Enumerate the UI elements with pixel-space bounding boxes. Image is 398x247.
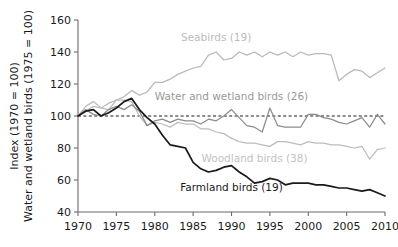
x-axis-tick-label: 1975 bbox=[102, 220, 130, 233]
series-label-woodland-birds: Woodland birds (38) bbox=[202, 152, 308, 164]
y-axis-tick-label: 160 bbox=[50, 14, 71, 27]
x-axis-tick-label: 1980 bbox=[141, 220, 169, 233]
series-line-seabirds bbox=[78, 52, 385, 116]
chart-container: 4060801001201401601970197519801985199019… bbox=[0, 0, 398, 247]
x-axis-tick-label: 2000 bbox=[294, 220, 322, 233]
x-axis-tick-label: 1970 bbox=[64, 220, 92, 233]
y-axis-title-line2: Water and wetland birds (1975 = 100) bbox=[22, 10, 35, 222]
y-axis-tick-label: 40 bbox=[57, 206, 71, 219]
y-axis-tick-label: 80 bbox=[57, 142, 71, 155]
x-axis-tick-label: 2005 bbox=[333, 220, 361, 233]
y-axis-tick-label: 140 bbox=[50, 46, 71, 59]
y-axis-title-line1: Index (1970 = 100) bbox=[8, 62, 21, 170]
series-label-seabirds: Seabirds (19) bbox=[181, 31, 251, 43]
y-axis-tick-label: 100 bbox=[50, 110, 71, 123]
x-axis-tick-label: 1990 bbox=[218, 220, 246, 233]
series-line-water-and-wetland-birds bbox=[78, 105, 385, 132]
y-axis-tick-label: 60 bbox=[57, 174, 71, 187]
series-label-farmland-birds: Farmland birds (19) bbox=[180, 181, 283, 193]
bird-population-index-line-chart: 4060801001201401601970197519801985199019… bbox=[0, 0, 398, 247]
series-label-water-and-wetland-birds: Water and wetland birds (26) bbox=[155, 90, 308, 102]
x-axis-tick-label: 1995 bbox=[256, 220, 284, 233]
x-axis-tick-label: 2010 bbox=[371, 220, 398, 233]
x-axis-tick-label: 1985 bbox=[179, 220, 207, 233]
y-axis-tick-label: 120 bbox=[50, 78, 71, 91]
